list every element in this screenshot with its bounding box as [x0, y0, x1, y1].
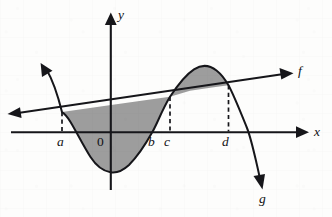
line-f-right-arrow-icon — [280, 68, 294, 80]
x-axis-arrow-icon — [296, 126, 309, 138]
line-f-label: f — [298, 63, 304, 78]
curve-g-label: g — [259, 191, 266, 206]
tick-label-b: b — [148, 134, 155, 149]
graph-svg: y x f g a 0 b c d — [0, 0, 332, 217]
line-f-left-arrow-icon — [8, 107, 22, 118]
shaded-region-c-to-d — [170, 66, 229, 97]
origin-label: 0 — [97, 134, 104, 149]
y-axis-arrow-icon — [105, 13, 117, 26]
curve-g-lower-arrow-icon — [254, 174, 266, 190]
tick-label-a: a — [57, 134, 64, 149]
tick-label-c: c — [164, 134, 170, 149]
y-axis-label: y — [116, 7, 124, 22]
curve-g-upper-arrow-icon — [41, 63, 53, 77]
tick-label-d: d — [222, 134, 229, 149]
figure-canvas: y x f g a 0 b c d — [0, 0, 332, 217]
x-axis-label: x — [313, 124, 320, 139]
